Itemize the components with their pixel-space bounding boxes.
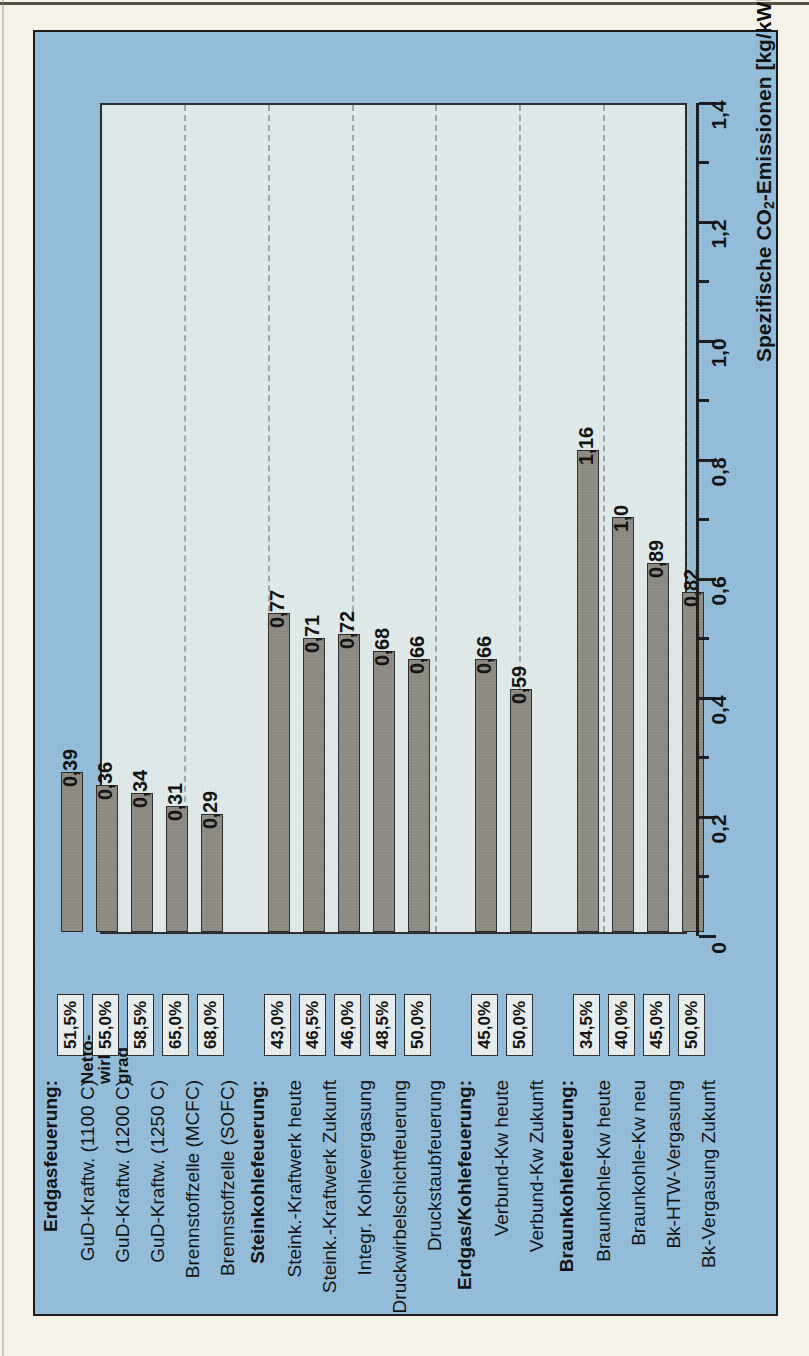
efficiency-value: 58,5% xyxy=(131,1001,151,1049)
axis-tick-label: 0,6 xyxy=(707,576,731,605)
efficiency-box: 43,0% xyxy=(264,994,291,1056)
category-label: Druckstaubfeuerung xyxy=(424,1080,446,1251)
category-label: Steink.-Kraftwerk Zukunft xyxy=(319,1080,341,1293)
category-label: Bk-Vergasung Zukunft xyxy=(698,1080,720,1268)
efficiency-box: 48,5% xyxy=(369,994,396,1056)
efficiency-value: 45,0% xyxy=(475,1001,495,1049)
axis-tick-label: 1,4 xyxy=(707,100,731,129)
category-label: GuD-Kraftw. (1100 C) xyxy=(77,1080,99,1261)
category-label: Integr. Kohlevergasung xyxy=(354,1080,376,1275)
value-axis: 00,20,40,60,81,01,21,4 xyxy=(696,103,699,936)
bar xyxy=(338,634,360,932)
axis-tick xyxy=(699,161,709,164)
bar-value-label: 0,68 xyxy=(371,628,394,666)
category-group-label: Braunkohlefeuerung: xyxy=(556,1080,578,1272)
efficiency-value: 45,0% xyxy=(647,1001,667,1049)
bar xyxy=(303,638,325,932)
efficiency-box: 50,0% xyxy=(404,994,431,1056)
category-label: Brennstoffzelle (MCFC) xyxy=(182,1080,204,1278)
bar-value-label: 0,71 xyxy=(301,616,324,654)
axis-title-text: Spezifische CO2-Emissionen [kg/kWhel] xyxy=(752,0,775,362)
bar-value-label: 0,36 xyxy=(94,762,117,800)
efficiency-value: 51,5% xyxy=(61,1001,81,1049)
category-label: Bk-HTW-Vergasung xyxy=(663,1080,685,1249)
bar xyxy=(475,659,497,932)
bar xyxy=(373,651,395,932)
bar xyxy=(577,450,599,932)
efficiency-box: 50,0% xyxy=(678,994,705,1056)
efficiency-box: 65,0% xyxy=(162,994,189,1056)
axis-title: Spezifische CO2-Emissionen [kg/kWhel] xyxy=(752,0,776,362)
bar xyxy=(612,517,634,932)
efficiency-box: 55,0% xyxy=(92,994,119,1056)
category-group-label: Erdgasfeuerung: xyxy=(40,1080,62,1232)
bar-value-label: 0,31 xyxy=(164,783,187,821)
axis-tick-label: 0,8 xyxy=(707,457,731,486)
bar xyxy=(61,772,83,932)
category-label: Verbund-Kw Zukunft xyxy=(526,1080,548,1252)
category-label: Braunkohle-Kw heute xyxy=(593,1080,615,1262)
category-label: Druckwirbelschichtfeuerung xyxy=(389,1080,411,1313)
bar xyxy=(201,814,223,932)
figure-panel: 0,390,360,340,310,290,770,710,720,680,66… xyxy=(33,30,778,1316)
bar-value-label: 0,34 xyxy=(129,771,152,809)
efficiency-value: 55,0% xyxy=(96,1001,116,1049)
efficiency-value: 34,5% xyxy=(577,1001,597,1049)
category-label: GuD-Kraftw. (1250 C) xyxy=(147,1080,169,1263)
bar xyxy=(408,659,430,932)
axis-tick xyxy=(699,875,709,878)
page-left-rule xyxy=(2,0,4,1356)
bar-value-label: 0,66 xyxy=(406,637,429,675)
axis-tick-label: 0,2 xyxy=(707,814,731,843)
efficiency-box: 46,0% xyxy=(334,994,361,1056)
axis-tick-label: 1,0 xyxy=(707,338,731,367)
bar-value-label: 1,0 xyxy=(610,505,633,532)
category-group-label: Steinkohlefeuerung: xyxy=(247,1080,269,1264)
efficiency-box: 45,0% xyxy=(471,994,498,1056)
efficiency-box: 68,0% xyxy=(197,994,224,1056)
efficiency-value: 68,0% xyxy=(201,1001,221,1049)
category-label: Braunkohle-Kw neu xyxy=(628,1080,650,1246)
bar-value-label: 1,16 xyxy=(575,427,598,465)
bar-value-label: 0,39 xyxy=(59,750,82,788)
bar-value-label: 0,66 xyxy=(473,637,496,675)
efficiency-value: 46,5% xyxy=(303,1001,323,1049)
axis-tick-label: 0,4 xyxy=(707,695,731,724)
efficiency-box: 45,0% xyxy=(643,994,670,1056)
category-label: Steink.-Kraftwerk heute xyxy=(284,1080,306,1277)
category-label: Brennstoffzelle (SOFC) xyxy=(217,1080,239,1276)
bar-value-label: 0,77 xyxy=(266,590,289,628)
plot-area: 0,390,360,340,310,290,770,710,720,680,66… xyxy=(100,103,687,934)
axis-tick xyxy=(699,637,709,640)
axis-tick-label: 0 xyxy=(707,942,731,954)
efficiency-box: 46,5% xyxy=(299,994,326,1056)
axis-tick xyxy=(699,935,716,938)
efficiency-value: 46,0% xyxy=(338,1001,358,1049)
bar-value-label: 0,72 xyxy=(336,611,359,649)
efficiency-box: 34,5% xyxy=(573,994,600,1056)
bar-value-label: 0,89 xyxy=(645,540,668,578)
efficiency-box: 50,0% xyxy=(506,994,533,1056)
bar xyxy=(647,563,669,932)
efficiency-value: 43,0% xyxy=(268,1001,288,1049)
efficiency-value: 50,0% xyxy=(408,1001,428,1049)
efficiency-value: 65,0% xyxy=(166,1001,186,1049)
efficiency-value: 50,0% xyxy=(682,1001,702,1049)
efficiency-value: 40,0% xyxy=(612,1001,632,1049)
bar-value-label: 0,82 xyxy=(680,569,703,607)
axis-tick xyxy=(699,518,709,521)
efficiency-value: 50,0% xyxy=(510,1001,530,1049)
axis-tick xyxy=(699,756,709,759)
gridline-1,2 xyxy=(603,105,605,932)
bar xyxy=(131,793,153,932)
bar xyxy=(166,806,188,932)
bar xyxy=(510,689,532,932)
category-label: Verbund-Kw heute xyxy=(491,1080,513,1236)
efficiency-value: 48,5% xyxy=(373,1001,393,1049)
efficiency-box: 58,5% xyxy=(127,994,154,1056)
axis-tick xyxy=(699,280,709,283)
efficiency-box: 40,0% xyxy=(608,994,635,1056)
category-group-label: Erdgas/Kohlefeuerung: xyxy=(454,1080,476,1290)
axis-tick-label: 1,2 xyxy=(707,219,731,248)
efficiency-box: 51,5% xyxy=(57,994,84,1056)
